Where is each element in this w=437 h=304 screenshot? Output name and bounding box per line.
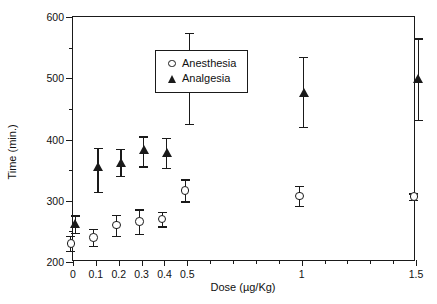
error-bar-cap (94, 192, 103, 193)
error-bar-cap (116, 149, 125, 150)
error-bar-cap (116, 176, 125, 177)
error-bar-cap (414, 120, 423, 121)
x-tick-minor (210, 260, 211, 264)
error-bar-cap (181, 179, 190, 180)
x-tick-minor (233, 260, 234, 264)
open-circle-marker (295, 192, 303, 200)
x-tick-major (96, 260, 97, 266)
y-tick-minor (69, 170, 73, 171)
error-bar-cap (139, 166, 148, 167)
error-bar-cap (158, 212, 167, 213)
x-tick-minor (256, 260, 257, 264)
filled-triangle-marker (299, 88, 309, 97)
legend-label: Anesthesia (182, 58, 236, 69)
x-tick-minor (347, 260, 348, 264)
open-circle-marker (181, 186, 189, 194)
error-bar-cap (414, 38, 423, 39)
y-tick-label: 600 (46, 12, 64, 23)
x-axis-title: Dose (µg/Kg) (210, 281, 275, 293)
error-bar-cap (185, 33, 194, 34)
filled-triangle-marker (70, 219, 80, 228)
x-tick-major (416, 260, 417, 266)
error-bar-cap (135, 234, 144, 235)
open-circle-marker (67, 239, 75, 247)
chart-legend: Anesthesia Analgesia (155, 50, 248, 93)
plot-area: 200300400500600 00.10.20.30.40.511.5 Ane… (72, 16, 415, 261)
legend-label: Analgesia (182, 73, 230, 84)
error-bar-cap (185, 124, 194, 125)
error-bar-cap (135, 209, 144, 210)
y-tick-label: 200 (46, 257, 64, 268)
y-tick-label: 500 (46, 73, 64, 84)
error-bar-cap (71, 215, 80, 216)
y-tick-major (66, 201, 73, 202)
x-tick-minor (325, 260, 326, 264)
x-tick-label: 0 (70, 269, 76, 280)
error-bar-cap (94, 148, 103, 149)
y-tick-major (66, 78, 73, 79)
error-bar-cap (295, 186, 304, 187)
y-tick-minor (69, 109, 73, 110)
open-circle-icon (164, 60, 180, 68)
error-bar-cap (162, 138, 171, 139)
error-bar-cap (299, 57, 308, 58)
error-bar-cap (139, 136, 148, 137)
error-bar-cap (112, 236, 121, 237)
y-tick-major (66, 140, 73, 141)
filled-triangle-marker (116, 158, 126, 167)
error-bar-cap (181, 201, 190, 202)
error-bar-cap (162, 168, 171, 169)
error-bar-cap (66, 251, 75, 252)
y-tick-label: 400 (46, 134, 64, 145)
x-tick-label: 0.3 (134, 269, 149, 280)
y-tick-label: 300 (46, 196, 64, 207)
y-tick-minor (69, 48, 73, 49)
open-circle-marker (135, 217, 143, 225)
open-circle-marker (89, 233, 97, 241)
filled-triangle-icon (164, 75, 180, 83)
x-tick-major (119, 260, 120, 266)
error-bar-cap (89, 246, 98, 247)
y-axis-title: Time (min.) (6, 124, 18, 179)
y-tick-major (66, 262, 73, 263)
x-tick-label: 0.5 (180, 269, 195, 280)
error-bar-cap (299, 127, 308, 128)
filled-triangle-marker (139, 145, 149, 154)
x-tick-major (73, 260, 74, 266)
x-tick-minor (370, 260, 371, 264)
x-tick-label: 0.4 (157, 269, 172, 280)
open-circle-marker (112, 221, 120, 229)
x-tick-label: 0.1 (89, 269, 104, 280)
x-tick-major (187, 260, 188, 266)
legend-item-anesthesia: Anesthesia (164, 56, 236, 71)
x-tick-major (164, 260, 165, 266)
legend-item-analgesia: Analgesia (164, 71, 236, 86)
error-bar-cap (66, 236, 75, 237)
x-tick-minor (279, 260, 280, 264)
x-tick-label: 1.5 (409, 269, 424, 280)
error-bar-cap (158, 226, 167, 227)
error-bar-cap (112, 215, 121, 216)
error-bar-cap (71, 233, 80, 234)
filled-triangle-marker (413, 74, 423, 83)
x-tick-minor (393, 260, 394, 264)
filled-triangle-marker (93, 162, 103, 171)
filled-triangle-marker (162, 148, 172, 157)
y-tick-major (66, 17, 73, 18)
x-tick-major (302, 260, 303, 266)
x-tick-label: 0.2 (111, 269, 126, 280)
error-bar-cap (89, 229, 98, 230)
open-circle-marker (410, 192, 418, 200)
chart-figure: Time (min.) Dose (µg/Kg) 200300400500600… (0, 0, 437, 304)
open-circle-marker (158, 215, 166, 223)
x-tick-label: 1 (299, 269, 305, 280)
error-bar-cap (295, 206, 304, 207)
x-tick-major (142, 260, 143, 266)
